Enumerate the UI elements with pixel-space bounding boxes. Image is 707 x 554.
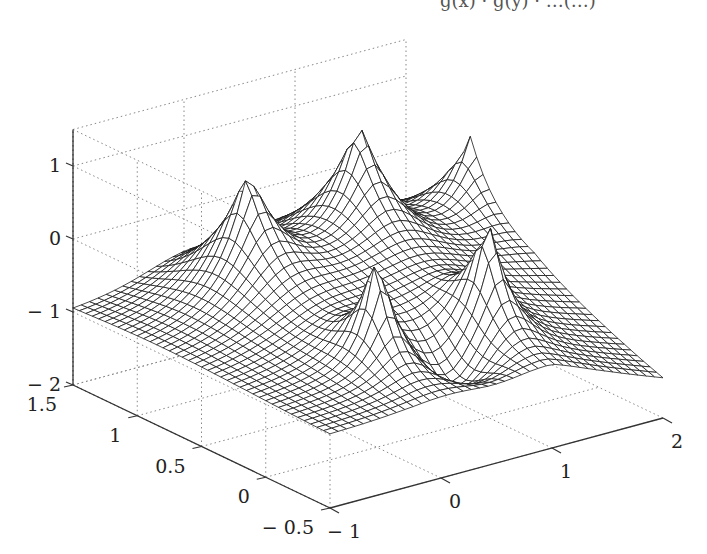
z-tick-label: 1	[49, 154, 61, 176]
x-tick-label: 2	[671, 430, 683, 452]
z-tick	[66, 309, 73, 312]
x-axis	[330, 418, 663, 508]
x-tick	[552, 448, 561, 453]
y-tick-label: 1.5	[27, 393, 57, 415]
surface-plot: − 2− 101− 0.500.511.5− 1012	[0, 0, 707, 554]
y-tick	[321, 508, 330, 510]
y-tick	[257, 477, 266, 479]
z-tick-label: 0	[49, 227, 61, 249]
x-tick-label: − 1	[327, 520, 361, 542]
grid-line	[73, 40, 406, 130]
y-tick-label: 1	[109, 424, 121, 446]
x-tick-label: 1	[560, 460, 572, 482]
z-tick	[66, 382, 73, 385]
y-tick	[64, 385, 73, 387]
x-tick	[663, 418, 672, 423]
y-tick-label: − 0.5	[262, 516, 314, 538]
y-tick	[128, 416, 137, 418]
z-tick	[66, 163, 73, 166]
z-tick-label: − 1	[27, 300, 61, 322]
x-tick	[441, 478, 450, 483]
z-tick	[66, 236, 73, 239]
y-tick	[193, 447, 202, 449]
x-tick	[330, 508, 339, 513]
surface-mesh	[73, 131, 663, 434]
x-tick-label: 0	[449, 490, 461, 512]
z-tick-label: − 2	[27, 373, 61, 395]
y-tick-label: 0	[238, 485, 250, 507]
y-tick-label: 0.5	[155, 455, 185, 477]
